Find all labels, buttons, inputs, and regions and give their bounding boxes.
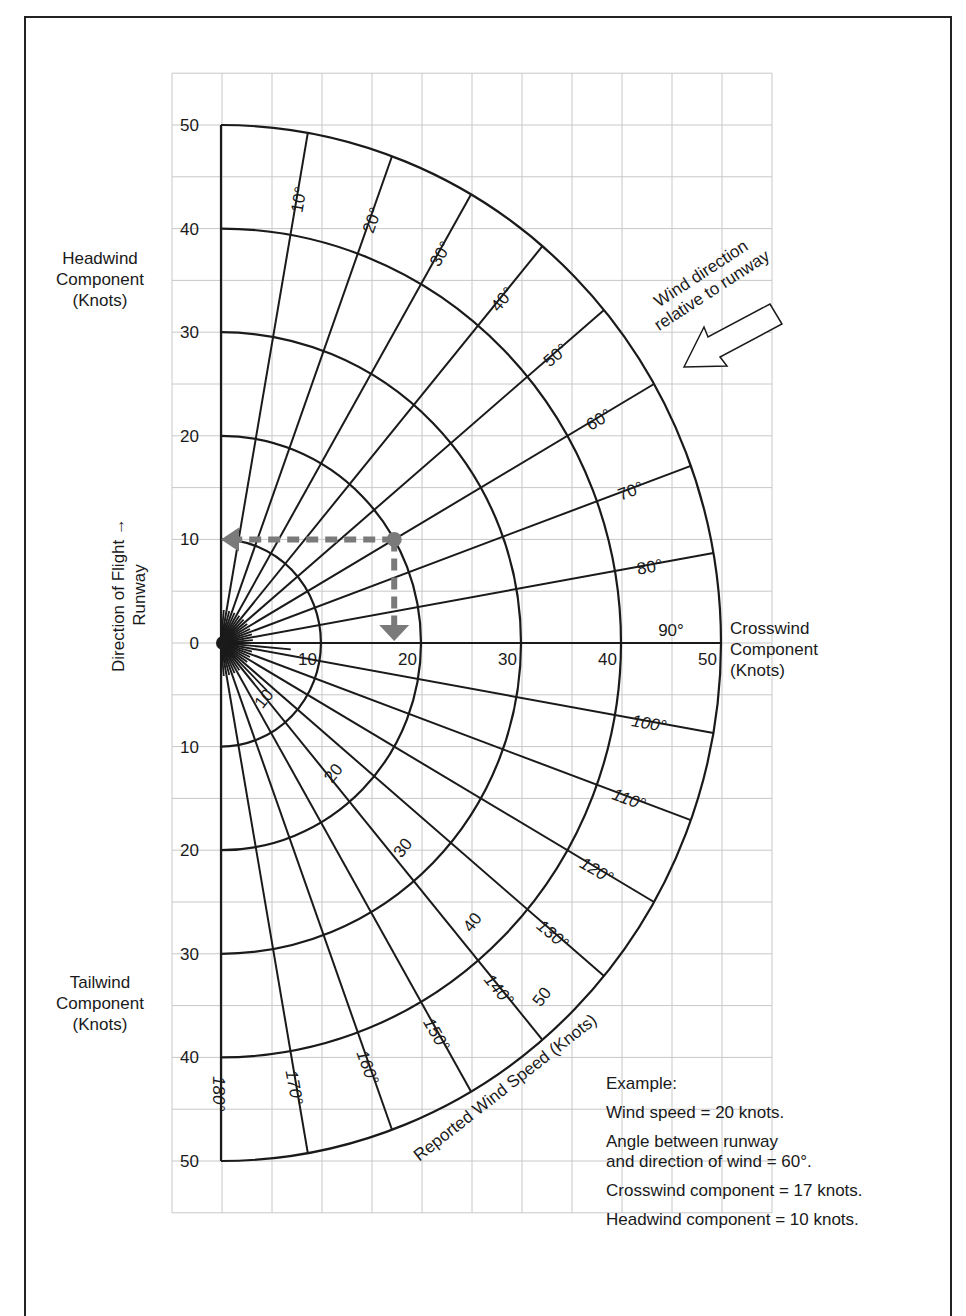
direction-of-flight-text: Direction of Flight → (108, 490, 129, 700)
wind-speed-inline-label: 20 (320, 760, 347, 787)
angle-label-50: 50° (540, 340, 572, 371)
tailwind-tick-10: 10 (180, 738, 199, 757)
angle-label-80: 80° (636, 556, 665, 579)
angle-label-170: 170° (282, 1068, 307, 1106)
tailwind-tick-40: 40 (180, 1048, 199, 1067)
tailwind-axis-label: Tailwind Component (Knots) (30, 972, 170, 1035)
wind-speed-inline-label: 50 (529, 984, 556, 1011)
crosswind-tick-30: 30 (498, 650, 517, 669)
crosswind-label-line: Crosswind (730, 618, 818, 639)
angle-label-70: 70° (615, 478, 646, 505)
crosswind-tick-20: 20 (398, 650, 417, 669)
tailwind-tick-20: 20 (180, 841, 199, 860)
runway-direction-label: Direction of Flight → Runway (108, 490, 150, 700)
headwind-label-line: Headwind (30, 248, 170, 269)
runway-text: Runway (129, 490, 150, 700)
crosswind-axis-label: Crosswind Component (Knots) (730, 618, 818, 681)
example-point-dot (387, 532, 402, 547)
headwind-label-line: Component (30, 269, 170, 290)
example-line: and direction of wind = 60°. (606, 1152, 863, 1172)
wind-direction-arrow-icon (684, 304, 782, 367)
angle-label-110: 110° (610, 785, 649, 815)
example-title: Example: (606, 1074, 863, 1094)
headwind-tick-10: 10 (180, 530, 199, 549)
angle-label-30: 30° (426, 238, 455, 270)
example-headwind-arrowhead-icon (221, 527, 239, 551)
angle-label-10: 10° (287, 185, 310, 214)
example-line: Wind speed = 20 knots. (606, 1103, 863, 1123)
headwind-tick-0: 0 (190, 634, 199, 653)
wind-speed-inline-label: 40 (459, 909, 486, 936)
headwind-tick-30: 30 (180, 323, 199, 342)
tailwind-tick-50: 50 (180, 1152, 199, 1171)
crosswind-tick-40: 40 (598, 650, 617, 669)
angle-label-20: 20° (359, 205, 386, 236)
angle-label-100: 100° (630, 711, 668, 736)
tailwind-tick-30: 30 (180, 945, 199, 964)
headwind-tick-50: 50 (180, 116, 199, 135)
headwind-axis-label: Headwind Component (Knots) (30, 248, 170, 311)
origin-dot (216, 636, 230, 650)
example-line: Angle between runway (606, 1132, 863, 1152)
example-crosswind-arrowhead-icon (379, 625, 409, 641)
tailwind-label-line: Component (30, 993, 170, 1014)
example-line: Headwind component = 10 knots. (606, 1210, 863, 1230)
example-box: Example: Wind speed = 20 knots. Angle be… (606, 1074, 863, 1239)
angle-label-150: 150° (419, 1015, 453, 1055)
angle-label-90: 90° (658, 621, 684, 640)
tailwind-label-line: (Knots) (30, 1014, 170, 1035)
crosswind-label-line: (Knots) (730, 660, 818, 681)
crosswind-tick-50: 50 (698, 650, 717, 669)
angle-label-180: 180° (209, 1076, 228, 1111)
crosswind-tick-10: 10 (298, 650, 317, 669)
example-line: Crosswind component = 17 knots. (606, 1181, 863, 1201)
headwind-label-line: (Knots) (30, 290, 170, 311)
headwind-tick-20: 20 (180, 427, 199, 446)
tailwind-label-line: Tailwind (30, 972, 170, 993)
crosswind-label-line: Component (730, 639, 818, 660)
angle-label-40: 40° (487, 283, 518, 315)
angle-label-160: 160° (352, 1048, 382, 1088)
angle-label-120: 120° (576, 853, 616, 887)
angle-label-130: 130° (533, 916, 572, 953)
angle-label-140: 140° (480, 970, 517, 1009)
headwind-tick-40: 40 (180, 220, 199, 239)
